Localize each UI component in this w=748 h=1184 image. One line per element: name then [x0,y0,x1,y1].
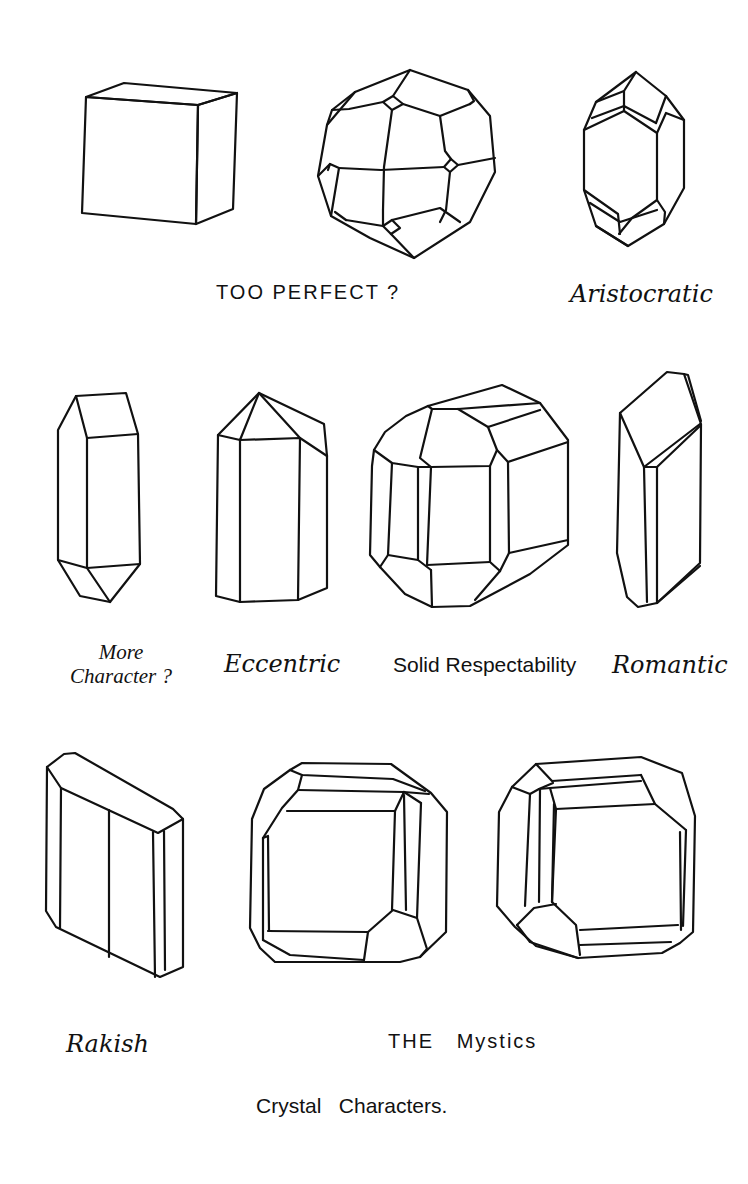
crystal-oblique-prism [617,372,701,607]
label-too-perfect: TOO PERFECT ? [216,281,400,304]
crystal-mystic-right [497,757,695,958]
label-solid-respectability: Solid Respectability [393,653,576,677]
label-character: Character ? [66,664,176,688]
label-the-mystics: THE Mystics [388,1030,537,1053]
crystal-prismatic-oval [584,72,684,246]
crystal-hexagonal-prism-pointed [58,393,140,602]
crystal-characters-figure: TOO PERFECT ? Aristocratic More Characte… [0,0,748,1184]
crystal-blocky-barrel [370,385,568,607]
crystal-mystic-left [250,763,447,962]
crystal-tall-prism [216,393,327,602]
label-romantic: Romantic [612,651,728,679]
label-more: More [66,640,176,664]
label-rakish: Rakish [66,1030,149,1058]
label-aristocratic: Aristocratic [570,280,713,308]
crystal-drawings [0,0,748,1184]
crystal-pentagonal-dodecahedron [318,70,495,258]
label-more-character: More Character ? [66,640,176,688]
crystal-cube [82,83,237,224]
figure-title: Crystal Characters. [256,1094,447,1118]
label-eccentric: Eccentric [224,650,340,678]
crystal-tabular-slab [46,753,183,977]
